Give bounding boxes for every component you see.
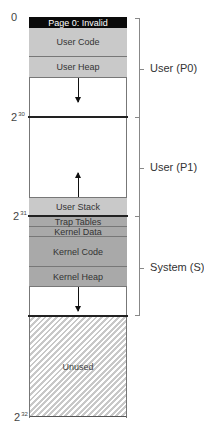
address-base: 2 <box>11 111 17 123</box>
boundary-2-30-line <box>28 116 128 118</box>
address-base: 2 <box>13 210 19 222</box>
trap-tables-label: Trap Tables <box>55 217 102 227</box>
address-label-2-32: 232 <box>14 412 28 423</box>
kernel-heap-label: Kernel Heap <box>53 272 103 282</box>
kernel-code-region: Kernel Code <box>29 237 127 267</box>
bracket-tick-2-31 <box>135 216 140 217</box>
kernel-data-region: Kernel Data <box>29 227 127 237</box>
user-stack-label: User Stack <box>56 202 100 212</box>
stack-growth-arrow-icon <box>78 173 79 197</box>
segment-p0-text: User (P0) <box>150 62 197 74</box>
heap-growth-arrow-icon <box>78 78 79 102</box>
unused-label: Unused <box>62 362 93 372</box>
address-exponent: 32 <box>21 411 28 417</box>
address-0-text: 0 <box>11 11 17 23</box>
user-heap-label: User Heap <box>56 62 99 72</box>
segment-label-p1: User (P1) <box>140 162 197 173</box>
segment-label-p0: User (P0) <box>140 63 197 74</box>
bracket-tick-2-30 <box>135 117 140 118</box>
user-code-region: User Code <box>29 28 127 57</box>
kernel-heap-region: Kernel Heap <box>29 267 127 287</box>
unused-region: Unused <box>29 317 127 417</box>
kernel-code-label: Kernel Code <box>53 247 103 257</box>
segment-p1-text: User (P1) <box>150 161 197 173</box>
trap-tables-region: Trap Tables <box>29 217 127 227</box>
address-exponent: 31 <box>20 210 27 216</box>
kernel-data-label: Kernel Data <box>54 227 102 237</box>
bracket-tick-bottom <box>135 315 140 316</box>
user-heap-region: User Heap <box>29 57 127 78</box>
segment-system-text: System (S) <box>150 261 204 273</box>
kernel-heap-growth-arrow-icon <box>78 287 79 311</box>
address-label-0: 0 <box>11 12 17 23</box>
address-label-2-31: 231 <box>13 211 27 222</box>
address-base: 2 <box>14 411 20 423</box>
page0-label: Page 0: Invalid <box>48 18 108 28</box>
user-code-label: User Code <box>56 37 99 47</box>
user-stack-region: User Stack <box>29 197 127 216</box>
page0-invalid-region: Page 0: Invalid <box>29 17 127 28</box>
address-label-2-30: 230 <box>11 112 25 123</box>
bracket-tick-top <box>135 18 140 19</box>
address-exponent: 30 <box>18 111 25 117</box>
segment-label-system: System (S) <box>140 262 204 273</box>
